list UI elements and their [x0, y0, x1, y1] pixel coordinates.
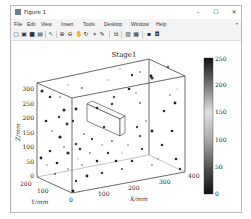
svg-text:200: 200 [20, 180, 32, 187]
insert-colorbar-icon[interactable]: ▥ [125, 31, 131, 37]
svg-text:250: 250 [215, 55, 227, 62]
menu-file[interactable]: File [14, 19, 22, 29]
svg-text:50: 50 [215, 163, 223, 170]
svg-text:200: 200 [215, 81, 227, 88]
scatter3d-plot[interactable]: Stage1 [12, 41, 241, 212]
plot-title: Stage1 [112, 51, 137, 59]
toolbar-separator [142, 31, 143, 38]
figure-window: Figure 1 – ☐ ✕ File Edit View Insert Too… [10, 5, 242, 213]
z-axis-ticks: 0 50 100 150 200 250 300 [23, 85, 35, 179]
open-file-icon[interactable]: ▣ [21, 31, 27, 37]
svg-text:150: 150 [215, 108, 227, 115]
menu-edit[interactable]: Edit [27, 19, 36, 29]
svg-text:200: 200 [23, 114, 35, 121]
matlab-figure-icon [15, 9, 21, 15]
svg-text:300: 300 [159, 178, 171, 185]
menu-insert[interactable]: Insert [61, 19, 74, 29]
svg-text:250: 250 [23, 100, 35, 107]
svg-text:0: 0 [30, 172, 34, 179]
x-axis-label: X/mm [129, 195, 148, 202]
menu-view[interactable]: View [41, 19, 52, 29]
svg-text:200: 200 [128, 184, 140, 191]
new-figure-icon[interactable]: ▢ [13, 31, 19, 37]
svg-text:50: 50 [26, 158, 34, 165]
insert-legend-icon[interactable]: ▦ [133, 31, 139, 37]
svg-text:0: 0 [215, 190, 219, 197]
svg-text:100: 100 [23, 143, 35, 150]
svg-text:0: 0 [69, 196, 73, 203]
data-cursor-icon[interactable]: ⌖ [91, 31, 97, 37]
svg-text:100: 100 [37, 187, 49, 194]
colorbar [204, 58, 213, 194]
svg-text:400: 400 [188, 172, 200, 179]
toolbar-separator [109, 31, 110, 38]
link-plot-icon[interactable]: ⧉ [113, 31, 119, 37]
x-axis-ticks: 100 200 300 400 [98, 172, 200, 197]
window-title: Figure 1 [24, 7, 46, 18]
print-icon[interactable]: ▤ [37, 31, 43, 37]
z-axis-label: Z/mm [14, 123, 21, 142]
zoom-out-icon[interactable]: ⊖ [67, 31, 73, 37]
title-bar: Figure 1 – ☐ ✕ [11, 6, 241, 19]
svg-text:150: 150 [23, 129, 35, 136]
edit-plot-icon[interactable]: ↖ [48, 31, 54, 37]
brush-icon[interactable]: ✎ [99, 31, 105, 37]
close-button[interactable]: ✕ [228, 6, 240, 18]
menu-bar: File Edit View Insert Tools Desktop Wind… [11, 19, 241, 29]
inner-block [87, 101, 125, 136]
toolbar-separator [121, 31, 122, 38]
toolbar-separator [56, 31, 57, 38]
menu-window[interactable]: Window [131, 19, 149, 29]
menu-tools[interactable]: Tools [83, 19, 95, 29]
show-plot-tools-icon[interactable]: ◘ [154, 31, 160, 37]
svg-text:300: 300 [23, 85, 35, 92]
y-axis-label: Y/mm [31, 198, 49, 205]
maximize-button[interactable]: ☐ [210, 6, 222, 18]
toolbar-separator [45, 31, 46, 38]
save-icon[interactable]: ■ [29, 31, 35, 37]
colorbar-ticks: 0 50 100 150 200 250 [215, 55, 227, 197]
zoom-in-icon[interactable]: ⊕ [59, 31, 65, 37]
menu-overflow-icon[interactable]: ▾ [236, 19, 238, 29]
rotate-3d-icon[interactable]: ↻ [83, 31, 89, 37]
svg-text:100: 100 [215, 136, 227, 143]
figure-canvas[interactable]: Stage1 [12, 41, 241, 212]
menu-desktop[interactable]: Desktop [104, 19, 122, 29]
toolbar: ▢ ▣ ■ ▤ ↖ ⊕ ⊖ ✋ ↻ ⌖ ✎ ⧉ ▥ ▦ ▪ ◘ [11, 29, 241, 41]
menu-help[interactable]: Help [156, 19, 166, 29]
pan-icon[interactable]: ✋ [75, 31, 81, 37]
hide-plot-tools-icon[interactable]: ▪ [146, 31, 152, 37]
minimize-button[interactable]: – [192, 6, 204, 18]
svg-text:100: 100 [98, 190, 110, 197]
